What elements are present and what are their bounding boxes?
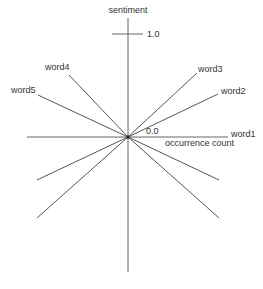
word-label-3: word3 [197,64,223,74]
sentiment-tick-label: 1.0 [147,29,160,39]
ray-word3 [128,73,197,137]
origin-point [126,135,130,139]
word-label-5: word5 [10,85,36,95]
sentiment-axis-label: sentiment [108,5,148,15]
ray-word5 [38,95,128,137]
word-label-1: word1 [230,129,256,139]
origin-label: 0.0 [146,126,159,136]
occurrence-axis-label: occurrence count [165,138,235,148]
ray-word2 [128,94,218,137]
word-label-2: word2 [220,86,246,96]
word-label-4: word4 [44,62,70,72]
ray-lower-left-2 [37,137,128,218]
ray-word4 [69,75,128,137]
ray-lower-right-2 [128,137,219,218]
ray-lower-left-1 [37,137,128,180]
word-sentiment-diagram: sentiment 1.0 0.0 occurrence count word1… [0,0,263,289]
